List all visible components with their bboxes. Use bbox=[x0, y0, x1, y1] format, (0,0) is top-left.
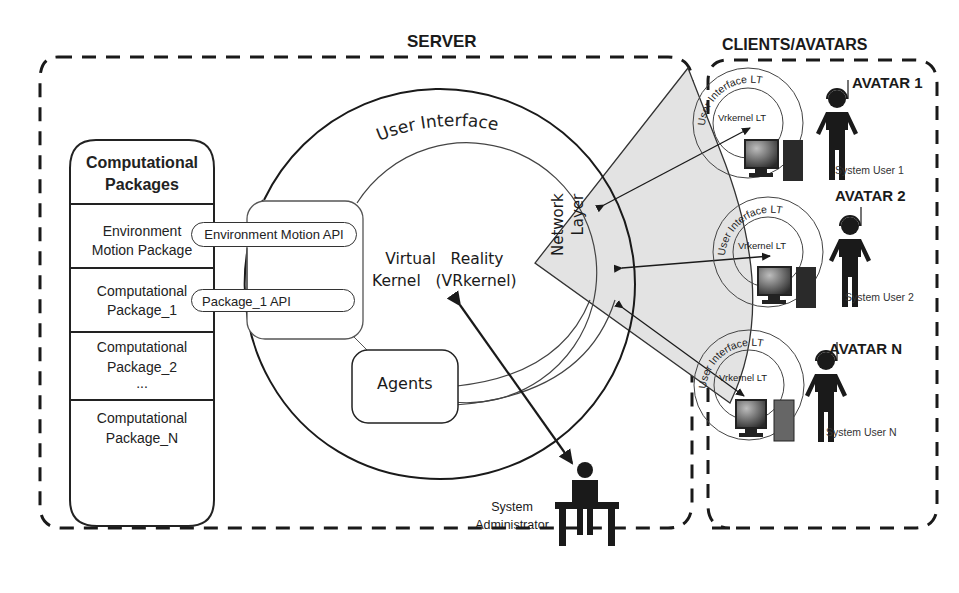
vrkernel-lt-1: Vrkernel LT bbox=[718, 112, 766, 123]
vrkernel-lt-n: Vrkernel LT bbox=[719, 372, 767, 383]
avatar-1-label: AVATAR 1 bbox=[852, 74, 923, 91]
system-user-n-label: System User N bbox=[826, 426, 897, 438]
computer-icon-2 bbox=[758, 267, 816, 308]
agents-label: Agents bbox=[377, 374, 433, 393]
packages-header: Computational Packages bbox=[70, 152, 214, 196]
computer-icon-1 bbox=[745, 140, 803, 181]
system-user-1-label: System User 1 bbox=[835, 164, 904, 176]
computer-icon-n bbox=[736, 400, 794, 441]
vrkernel-lt-2: Vrkernel LT bbox=[738, 240, 786, 251]
administrator-icon bbox=[555, 462, 619, 546]
clients-title: CLIENTS/AVATARS bbox=[722, 36, 867, 54]
package-1-api[interactable]: Package_1 API bbox=[191, 289, 355, 312]
avatar-n-label: AVATAR N bbox=[829, 340, 902, 357]
environment-motion-api[interactable]: Environment Motion API bbox=[191, 222, 357, 247]
network-layer-label: Network Layer bbox=[548, 193, 588, 256]
user-interface-label: User Interface bbox=[373, 110, 500, 145]
avatar-2-label: AVATAR 2 bbox=[835, 187, 906, 204]
system-user-2-label: System User 2 bbox=[845, 291, 914, 303]
package-item-n[interactable]: ComputationalPackage_N bbox=[70, 408, 214, 448]
system-administrator-label: System Administrator bbox=[467, 498, 557, 534]
server-title: SERVER bbox=[407, 32, 477, 52]
package-item-2[interactable]: ComputationalPackage_2 ... bbox=[70, 337, 214, 389]
vrkernel-label: Virtual Reality Kernel (VRkernel) bbox=[372, 248, 517, 292]
